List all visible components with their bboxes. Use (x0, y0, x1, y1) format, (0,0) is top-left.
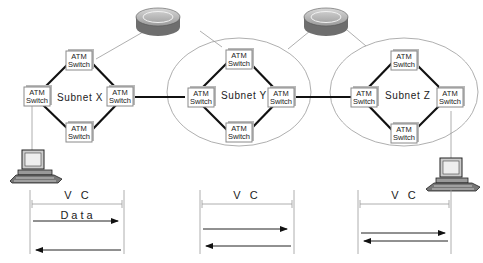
atm-switch: ATM Switch (188, 86, 216, 107)
atm-switch: ATM Switch (66, 49, 94, 70)
host-computer-icon (426, 158, 480, 191)
router-link (288, 31, 310, 49)
data-label: Data (60, 209, 95, 221)
subnet-z-label: Subnet Z (385, 90, 430, 101)
router-icon (136, 8, 180, 36)
atm-switch: ATM Switch (24, 85, 52, 106)
atm-switch: ATM Switch (351, 86, 379, 107)
subnet-y-label: Subnet Y (221, 90, 267, 101)
atm-switch: ATM Switch (437, 86, 465, 107)
vc-label: V C (233, 189, 260, 201)
vc-segment-3: V C (358, 189, 451, 254)
svg-text:Switch: Switch (68, 132, 90, 141)
atm-switch: ATM Switch (226, 121, 254, 142)
vc-label: V C (391, 189, 418, 201)
vc-segment-1: V C Data (30, 189, 124, 254)
svg-text:Switch: Switch (109, 96, 131, 105)
router-icon (304, 8, 348, 36)
subnet-x-label: Subnet X (57, 92, 103, 103)
atm-switch: ATM Switch (391, 49, 419, 70)
svg-text:Switch: Switch (228, 132, 250, 141)
svg-text:Switch: Switch (68, 60, 90, 69)
svg-text:Switch: Switch (393, 60, 415, 69)
svg-text:Switch: Switch (439, 97, 461, 106)
svg-text:Switch: Switch (190, 97, 212, 106)
atm-switch: ATM Switch (226, 48, 254, 69)
atm-switch: ATM Switch (107, 85, 135, 106)
svg-text:Switch: Switch (228, 59, 250, 68)
svg-text:Switch: Switch (353, 97, 375, 106)
vc-label: V C (64, 189, 91, 201)
svg-text:Switch: Switch (26, 96, 48, 105)
atm-switch: ATM Switch (268, 86, 296, 107)
atm-switch: ATM Switch (66, 121, 94, 142)
router-link (347, 30, 366, 46)
atm-switch: ATM Switch (391, 122, 419, 143)
vc-segment-2: V C (200, 189, 294, 254)
svg-text:Switch: Switch (393, 133, 415, 142)
atm-network-diagram: ATM Switch ATM Switch ATM Switch ATM Swi… (0, 0, 483, 263)
host-computer-icon (10, 150, 62, 183)
svg-text:Switch: Switch (270, 97, 292, 106)
